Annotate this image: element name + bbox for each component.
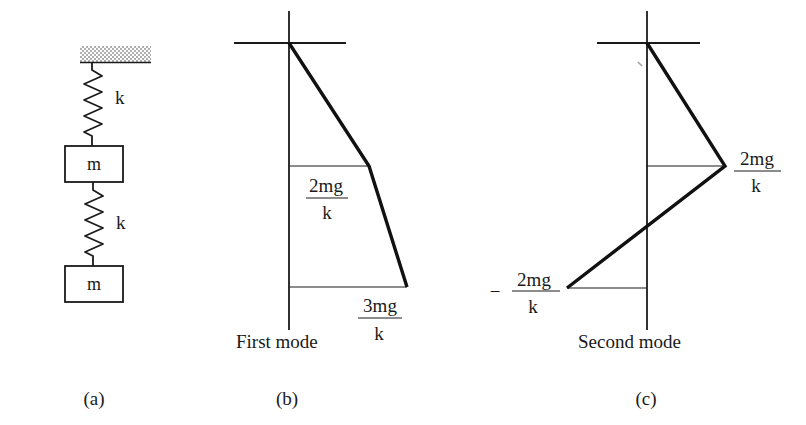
two-mass-spring-mode-shapes-figure: k m k m (a) 2mg k 3mg k First mode ( (0, 0, 806, 425)
panel-a-spring-mass-system: k m k m (a) (65, 46, 151, 410)
svg-text:3mg: 3mg (363, 295, 397, 316)
svg-text:2mg: 2mg (740, 148, 774, 169)
second-mode-mass-2-displacement-label: − 2mg k (490, 269, 560, 317)
panel-b-first-mode: 2mg k 3mg k First mode (b) (234, 11, 407, 410)
svg-text:k: k (374, 323, 384, 344)
svg-text:k: k (751, 175, 761, 196)
first-mode-mass-2-displacement-label: 3mg k (358, 295, 402, 344)
panel-c-second-mode: 2mg k − 2mg k Second mode (c) (490, 11, 781, 410)
first-mode-mass-1-displacement-label: 2mg k (306, 175, 348, 223)
spring-2 (85, 182, 103, 266)
svg-text:k: k (528, 296, 538, 317)
ceiling-support (80, 46, 151, 62)
svg-text:2mg: 2mg (309, 175, 343, 196)
mass-2-label: m (87, 274, 101, 294)
panel-b-caption: (b) (276, 388, 298, 410)
spring-1 (84, 63, 102, 146)
svg-text:k: k (322, 202, 332, 223)
stray-mark (638, 62, 642, 66)
svg-text:−: − (490, 281, 501, 302)
svg-text:2mg: 2mg (517, 269, 551, 290)
second-mode-title: Second mode (578, 331, 681, 352)
first-mode-title: First mode (236, 331, 318, 352)
spring-1-label: k (115, 87, 125, 108)
panel-c-caption: (c) (635, 388, 656, 410)
mass-1-label: m (87, 154, 101, 174)
panel-a-caption: (a) (83, 388, 104, 410)
second-mode-mass-1-displacement-label: 2mg k (734, 148, 781, 196)
first-mode-shape-curve (289, 43, 407, 287)
spring-2-label: k (116, 212, 126, 233)
